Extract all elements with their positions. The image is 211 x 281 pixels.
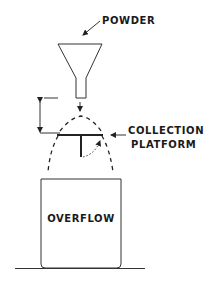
powder-label: POWDER xyxy=(102,15,155,26)
funnel xyxy=(58,44,102,98)
tilt-arrow xyxy=(83,141,100,157)
overflow-trajectory-left xyxy=(48,136,58,172)
overflow-label: OVERFLOW xyxy=(47,213,115,224)
platform-label: PLATFORM xyxy=(131,139,196,150)
drop-height-dimension xyxy=(40,98,60,133)
overflow-trajectory-right xyxy=(102,136,113,172)
powder-cone xyxy=(60,116,101,131)
powder-collection-diagram: POWDER COLLECTION PLATFORM OVERFLOW xyxy=(0,0,211,281)
collection-label: COLLECTION xyxy=(128,125,204,136)
powder-arrow xyxy=(83,21,100,35)
